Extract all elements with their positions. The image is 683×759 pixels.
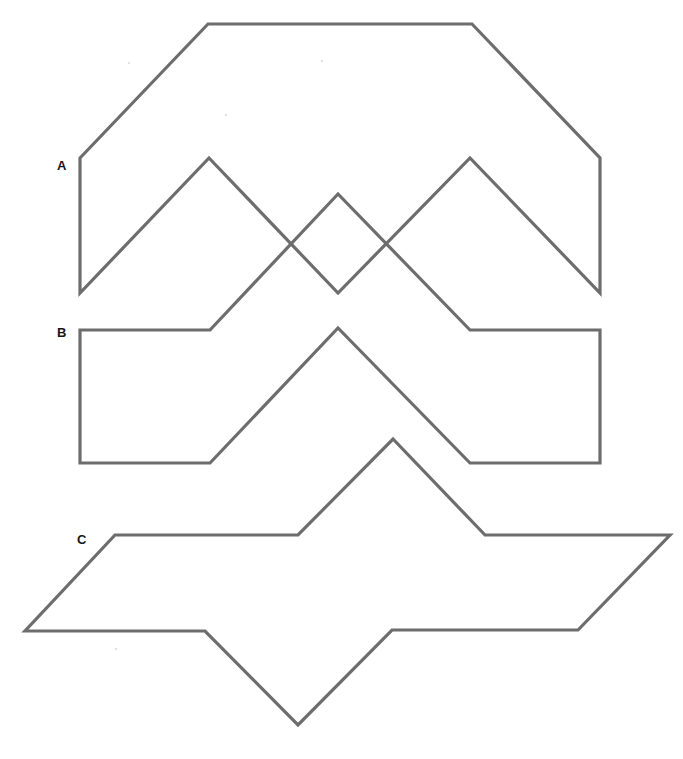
paper-speck — [115, 648, 117, 650]
paper-speck — [225, 114, 227, 116]
paper-speck — [321, 60, 323, 62]
shape-label-c: C — [77, 533, 87, 546]
shape-c-outline — [25, 439, 670, 725]
shape-b-outline — [80, 194, 600, 463]
paper-speck — [128, 62, 130, 64]
figure-canvas: ABC — [0, 0, 683, 759]
figure-svg — [0, 0, 683, 759]
shape-a-outline — [80, 24, 600, 293]
shape-label-a: A — [57, 159, 67, 172]
shape-label-b: B — [57, 326, 67, 339]
shape-group — [25, 24, 670, 725]
